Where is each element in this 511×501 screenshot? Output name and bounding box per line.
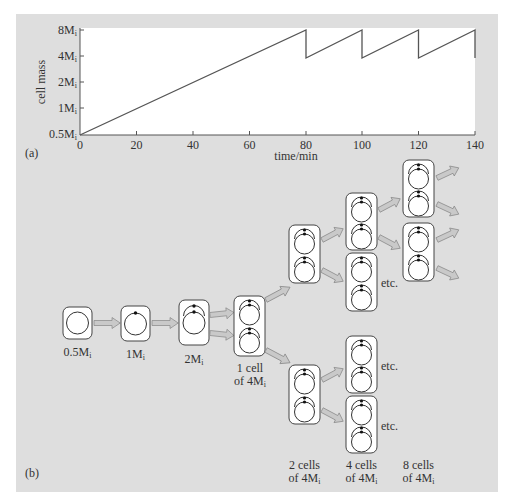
cell-box-4cells-3 bbox=[346, 336, 377, 393]
arrow-icon bbox=[319, 265, 345, 286]
ytick-4: 4Mi bbox=[58, 49, 78, 64]
etc-label: etc. bbox=[381, 359, 398, 373]
stage-label-4mi-line2: of 4Mi bbox=[234, 374, 267, 389]
xtick-120: 120 bbox=[410, 138, 428, 152]
cell-box-2mi bbox=[179, 300, 209, 345]
column-label-2cells-line1: 2 cells bbox=[289, 458, 320, 472]
ytick-0-5: 0.5Mi bbox=[49, 127, 78, 142]
arrow-icon bbox=[319, 405, 345, 426]
panel-b-label: (b) bbox=[25, 466, 39, 480]
cell-box-2cells-bottom bbox=[289, 365, 320, 424]
cell-box-8cells-2 bbox=[403, 223, 434, 281]
cell-box-4cells-4 bbox=[346, 396, 377, 453]
column-label-4cells-line2: of 4Mi bbox=[346, 471, 379, 486]
cell-box-4mi bbox=[234, 296, 265, 356]
arrow-icon bbox=[319, 224, 345, 245]
stage-label-4mi-line1: 1 cell bbox=[237, 361, 264, 375]
cell-box-4cells-1 bbox=[346, 193, 377, 250]
cell-box-2cells-top bbox=[289, 225, 320, 283]
stage-label-1mi: 1Mi bbox=[126, 347, 146, 362]
arrow-icon bbox=[94, 318, 120, 329]
ytick-1: 1Mi bbox=[58, 101, 78, 116]
arrow-icon bbox=[376, 232, 402, 253]
xtick-40: 40 bbox=[187, 138, 199, 152]
plot-area bbox=[80, 28, 475, 135]
arrow-icon bbox=[376, 194, 402, 215]
cell-box-8cells-1 bbox=[403, 160, 434, 217]
x-axis-label: time/min bbox=[274, 149, 317, 163]
figure-canvas: 8Mi 4Mi 2Mi 1Mi 0.5Mi cell mass 0 20 40 … bbox=[0, 0, 511, 501]
etc-label: etc. bbox=[381, 419, 398, 433]
xtick-100: 100 bbox=[353, 138, 371, 152]
ytick-8: 8Mi bbox=[58, 23, 78, 38]
arrow-icon bbox=[435, 199, 461, 219]
column-label-8cells-line2: of 4Mi bbox=[403, 471, 436, 486]
arrow-icon bbox=[435, 263, 461, 283]
stage-label-0-5mi: 0.5Mi bbox=[64, 345, 93, 360]
diagram-panel-b: etc. etc. etc. 0.5Mi 1Mi 2Mi 1 cell of 4… bbox=[25, 160, 461, 486]
chart-panel-a: 8Mi 4Mi 2Mi 1Mi 0.5Mi cell mass 0 20 40 … bbox=[25, 23, 484, 163]
xtick-20: 20 bbox=[131, 138, 143, 152]
stage-label-2mi: 2Mi bbox=[185, 352, 205, 367]
arrow-icon bbox=[263, 282, 292, 304]
column-label-8cells-line1: 8 cells bbox=[403, 458, 434, 472]
arrow-icon bbox=[435, 163, 461, 183]
column-label-4cells-line1: 4 cells bbox=[346, 458, 377, 472]
y-axis-label: cell mass bbox=[34, 60, 48, 105]
column-label-2cells-line2: of 4Mi bbox=[289, 471, 322, 486]
xtick-60: 60 bbox=[244, 138, 256, 152]
xtick-0: 0 bbox=[77, 138, 83, 152]
cell-box-0-5mi bbox=[63, 307, 92, 339]
arrow-icon bbox=[319, 364, 345, 385]
arrow-icon bbox=[435, 225, 461, 245]
panel-a-label: (a) bbox=[25, 146, 38, 160]
arrow-icon bbox=[263, 345, 292, 367]
cell-box-4cells-2 bbox=[346, 253, 377, 311]
ytick-2: 2Mi bbox=[58, 75, 78, 90]
arrow-icon bbox=[209, 328, 234, 341]
etc-label: etc. bbox=[381, 276, 398, 290]
arrow-icon bbox=[152, 318, 178, 329]
arrow-icon bbox=[209, 307, 234, 320]
xtick-140: 140 bbox=[466, 138, 484, 152]
cell-box-1mi bbox=[121, 306, 150, 341]
